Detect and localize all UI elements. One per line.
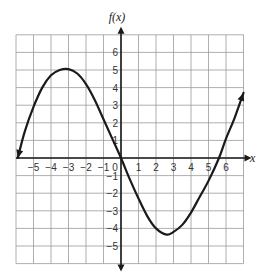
y-tick-label: 5 — [112, 65, 118, 76]
x-tick-label: −5 — [28, 162, 40, 173]
y-tick-label: −4 — [107, 223, 119, 234]
y-tick-label: 6 — [112, 47, 118, 58]
y-axis-label: f(x) — [109, 10, 126, 24]
x-tick-label: 3 — [171, 162, 177, 173]
x-tick-label: 5 — [206, 162, 212, 173]
x-tick-label: −3 — [63, 162, 75, 173]
x-tick-label: 2 — [153, 162, 159, 173]
y-tick-label: −2 — [107, 188, 119, 199]
x-tick-label: 4 — [188, 162, 194, 173]
x-tick-label: −2 — [80, 162, 92, 173]
x-tick-label: −4 — [45, 162, 57, 173]
x-axis-label: x — [249, 151, 256, 165]
y-axis-down-arrow-icon — [118, 265, 125, 272]
y-tick-label: 4 — [112, 83, 118, 94]
curve-right-arrow-icon — [238, 93, 245, 102]
x-tick-label: 1 — [136, 162, 142, 173]
tick-labels: −5−4−3−2−10123456−5−4−3−2−1123456 — [28, 47, 229, 252]
y-tick-label: 3 — [112, 100, 118, 111]
function-graph: −5−4−3−2−10123456−5−4−3−2−1123456 f(x) x — [0, 0, 261, 272]
x-tick-label: 6 — [223, 162, 229, 173]
y-tick-label: −3 — [107, 206, 119, 217]
y-tick-label: 2 — [112, 118, 118, 129]
y-tick-label: −1 — [107, 171, 119, 182]
function-curve — [18, 69, 244, 235]
y-tick-label: −5 — [107, 241, 119, 252]
y-axis-up-arrow-icon — [118, 27, 125, 34]
grid-lines — [16, 35, 244, 264]
curve-arrowheads — [16, 93, 244, 158]
